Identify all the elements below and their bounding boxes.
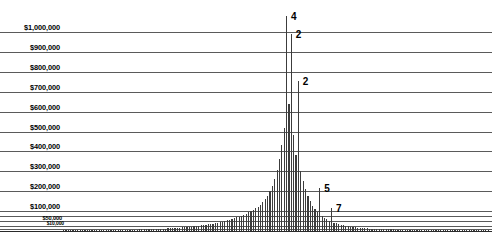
bar xyxy=(379,229,380,231)
bar xyxy=(215,223,216,231)
bar xyxy=(376,229,377,231)
bar xyxy=(144,229,145,231)
bar xyxy=(203,225,204,231)
bar xyxy=(272,186,273,231)
bar xyxy=(208,224,209,231)
bar xyxy=(331,208,332,231)
bar xyxy=(350,227,351,231)
bar xyxy=(205,225,206,231)
bar xyxy=(132,230,133,231)
bar xyxy=(118,230,119,231)
bar xyxy=(267,196,268,231)
bar xyxy=(481,230,482,231)
bar xyxy=(383,229,384,231)
bar xyxy=(141,229,142,231)
bar xyxy=(77,230,78,231)
bar xyxy=(421,230,422,231)
data-point-annotation: 2 xyxy=(296,30,302,40)
bar xyxy=(452,230,453,231)
bar xyxy=(336,223,337,231)
bar xyxy=(386,229,387,231)
bar xyxy=(426,230,427,231)
bar xyxy=(134,230,135,231)
bar xyxy=(343,225,344,231)
bar xyxy=(305,189,306,231)
bar xyxy=(367,228,368,231)
bar xyxy=(229,220,230,231)
bar xyxy=(158,229,159,231)
bar xyxy=(307,196,308,231)
bar xyxy=(298,81,299,231)
bar xyxy=(220,222,221,231)
bar xyxy=(357,228,358,231)
bar xyxy=(250,211,251,231)
bar xyxy=(322,216,323,231)
bar xyxy=(400,230,401,231)
bar xyxy=(103,230,104,231)
bar xyxy=(345,226,346,231)
bar xyxy=(326,219,327,231)
bar xyxy=(262,202,263,231)
bar xyxy=(265,199,266,231)
bar xyxy=(284,128,285,231)
bar xyxy=(447,230,448,231)
bar xyxy=(362,228,363,231)
bar xyxy=(409,230,410,231)
bar xyxy=(163,229,164,231)
bar xyxy=(416,230,417,231)
bar xyxy=(193,226,194,231)
bar xyxy=(483,230,484,231)
bar xyxy=(450,230,451,231)
bar xyxy=(177,228,178,231)
bar xyxy=(295,155,296,231)
bar xyxy=(303,181,304,231)
bar xyxy=(160,229,161,231)
bar xyxy=(84,230,85,231)
bar xyxy=(355,227,356,231)
bar xyxy=(258,207,259,231)
bar xyxy=(165,229,166,232)
bar xyxy=(170,228,171,231)
bar xyxy=(274,179,275,231)
bar xyxy=(405,230,406,231)
data-point-annotation: 2 xyxy=(303,77,309,87)
bar xyxy=(471,230,472,231)
bar xyxy=(82,230,83,231)
bar xyxy=(248,212,249,231)
bar xyxy=(167,228,168,231)
bar xyxy=(388,229,389,231)
bar xyxy=(125,230,126,231)
bar xyxy=(395,230,396,231)
bar xyxy=(129,230,130,231)
bar xyxy=(70,230,71,231)
bar xyxy=(291,34,292,231)
bar xyxy=(462,230,463,231)
data-point-annotation: 7 xyxy=(336,204,342,214)
bar xyxy=(210,224,211,231)
bar xyxy=(246,214,247,231)
bar xyxy=(478,230,479,231)
bar xyxy=(172,228,173,231)
bar xyxy=(464,230,465,231)
bar xyxy=(113,230,114,231)
bar xyxy=(72,230,73,231)
bar xyxy=(184,227,185,231)
bar xyxy=(115,230,116,231)
data-point-annotation: 4 xyxy=(291,12,297,22)
bar xyxy=(281,145,282,231)
bar xyxy=(333,223,334,231)
bar xyxy=(174,228,175,231)
bar xyxy=(96,230,97,231)
bar xyxy=(101,230,102,231)
bar xyxy=(189,227,190,231)
bar xyxy=(293,135,294,231)
bar-plot-area xyxy=(0,0,492,239)
bar xyxy=(473,230,474,231)
chart-container: $1,000,000$900,000$800,000$700,000$600,0… xyxy=(0,0,492,239)
bar xyxy=(89,230,90,231)
bar xyxy=(137,230,138,231)
bar xyxy=(122,230,123,231)
bar xyxy=(241,216,242,231)
bar xyxy=(476,230,477,231)
bar xyxy=(91,230,92,231)
